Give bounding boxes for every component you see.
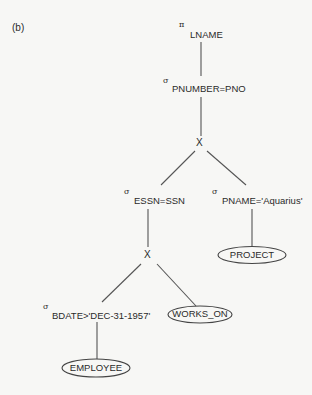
sigma-symbol-icon: σ: [212, 188, 217, 196]
select-pnumber-subscript: PNUMBER=PNO: [172, 84, 246, 94]
project-subscript: LNAME: [190, 30, 223, 40]
relation-employee: EMPLOYEE: [62, 363, 130, 373]
cross-product-bottom: X: [144, 250, 151, 260]
select-bdate-subscript: BDATE>'DEC-31-1957': [52, 311, 150, 321]
pi-symbol-icon: π: [179, 21, 184, 29]
sigma-symbol-icon: σ: [43, 303, 48, 311]
relation-project: PROJECT: [218, 250, 286, 260]
select-pname-subscript: PNAME='Aquarius': [222, 196, 302, 206]
edge-cross-to-works-on: [157, 264, 196, 306]
select-essn-subscript: ESSN=SSN: [134, 196, 185, 206]
figure-label: (b): [12, 23, 24, 33]
cross-product-top: X: [196, 138, 203, 148]
sigma-symbol-icon: σ: [124, 188, 129, 196]
edge-cross-to-select-bdate: [102, 264, 141, 302]
edge-cross-to-select-essn: [161, 151, 195, 185]
sigma-symbol-icon: σ: [163, 77, 168, 85]
edge-cross-to-select-pname: [207, 151, 246, 185]
relation-works-on: WORKS_ON: [168, 309, 232, 319]
